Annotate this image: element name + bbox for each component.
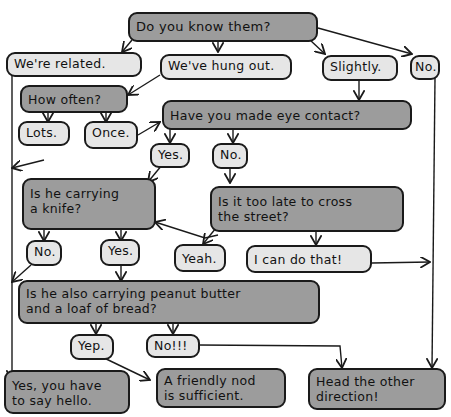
outcome-friendly-nod: A friendly nod is sufficient.: [156, 368, 286, 408]
answer-weve-hung-out: We've hung out.: [160, 54, 292, 80]
question-eye-contact: Have you made eye contact?: [162, 100, 412, 130]
answer-eye-contact-no: No.: [212, 143, 248, 169]
answer-once: Once.: [84, 121, 138, 149]
question-carrying-knife: Is he carrying a knife?: [22, 178, 156, 230]
answer-yep: Yep.: [70, 334, 114, 360]
question-peanut-butter-bread: Is he also carrying peanut butter and a …: [18, 280, 320, 324]
answer-i-can-do-that: I can do that!: [246, 245, 372, 273]
outcome-say-hello: Yes, you have to say hello.: [4, 370, 130, 414]
answer-knife-no: No.: [26, 240, 62, 266]
answer-were-related: We're related.: [6, 52, 142, 77]
question-how-often: How often?: [20, 85, 128, 113]
answer-no: No.: [410, 55, 440, 80]
answer-slightly: Slightly.: [322, 55, 398, 81]
answer-no-exclaim: No!!!: [146, 334, 200, 358]
question-too-late-to-cross: Is it too late to cross the street?: [210, 186, 404, 232]
answer-eye-contact-yes: Yes.: [150, 143, 190, 168]
answer-knife-yes: Yes.: [100, 239, 140, 266]
answer-lots: Lots.: [18, 121, 70, 146]
answer-yeah: Yeah.: [174, 244, 226, 272]
question-do-you-know-them: Do you know them?: [128, 12, 318, 42]
outcome-head-other-direction: Head the other direction!: [308, 368, 446, 410]
